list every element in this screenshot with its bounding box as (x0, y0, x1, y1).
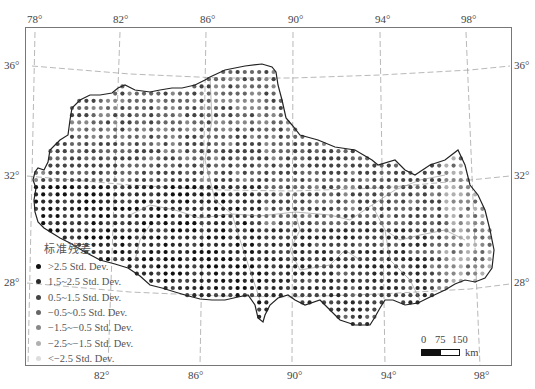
latitude-label-left: 28° (4, 276, 19, 288)
scale-unit: km (465, 347, 478, 358)
legend-item: −1.5~−0.5 Std. Dev. (34, 320, 133, 335)
legend-item: >2.5 Std. Dev. (34, 259, 133, 274)
legend-title: 标准残差 (34, 240, 133, 256)
legend-dot-icon (36, 264, 41, 269)
legend-label: 1.5~2.5 Std. Dev. (48, 276, 121, 287)
longitude-label-bottom: 82° (94, 369, 109, 381)
scale-tick-150: 150 (452, 334, 468, 345)
longitude-label-top: 94° (375, 13, 390, 25)
legend-dot-icon (36, 279, 41, 284)
longitude-label-top: 78° (27, 13, 42, 25)
scale-tick-75: 75 (435, 334, 446, 345)
legend-label: −1.5~−0.5 Std. Dev. (48, 322, 133, 333)
latitude-label-left: 32° (4, 169, 19, 181)
legend-label: −0.5~0.5 Std. Dev. (48, 307, 127, 318)
legend-label: <−2.5 Std. Dev. (48, 353, 114, 364)
legend-item: <−2.5 Std. Dev. (34, 351, 133, 366)
legend-label: >2.5 Std. Dev. (48, 261, 108, 272)
legend-label: 0.5~1.5 Std. Dev. (48, 292, 121, 303)
legend-item: −2.5~−1.5 Std. Dev. (34, 335, 133, 350)
legend-dot-icon (36, 295, 41, 300)
longitude-label-top: 82° (113, 13, 128, 25)
scale-graphic: km (421, 347, 501, 358)
longitude-label-top: 98° (461, 13, 476, 25)
longitude-label-top: 90° (288, 13, 303, 25)
latitude-label-right: 28° (514, 276, 529, 288)
scale-segment-white (441, 349, 460, 356)
scale-ticks: 0 75 150 (421, 334, 501, 346)
latitude-label-right: 36° (514, 59, 529, 71)
legend-dot-icon (36, 310, 41, 315)
legend-dot-icon (36, 325, 41, 330)
longitude-label-bottom: 98° (474, 369, 489, 381)
legend-dot-icon (36, 356, 41, 361)
legend: 标准残差 >2.5 Std. Dev.1.5~2.5 Std. Dev.0.5~… (34, 240, 133, 366)
longitude-label-bottom: 90° (287, 369, 302, 381)
legend-item: 1.5~2.5 Std. Dev. (34, 274, 133, 289)
legend-item: 0.5~1.5 Std. Dev. (34, 290, 133, 305)
longitude-label-bottom: 86° (188, 369, 203, 381)
longitude-label-bottom: 94° (381, 369, 396, 381)
latitude-label-left: 36° (4, 59, 19, 71)
legend-item: −0.5~0.5 Std. Dev. (34, 305, 133, 320)
legend-label: −2.5~−1.5 Std. Dev. (48, 338, 133, 349)
legend-dot-icon (36, 341, 41, 346)
scale-tick-0: 0 (421, 334, 426, 345)
scale-bar: 0 75 150 km (421, 334, 501, 358)
longitude-label-top: 86° (200, 13, 215, 25)
latitude-label-right: 32° (514, 169, 529, 181)
scale-segment-black (421, 349, 441, 356)
